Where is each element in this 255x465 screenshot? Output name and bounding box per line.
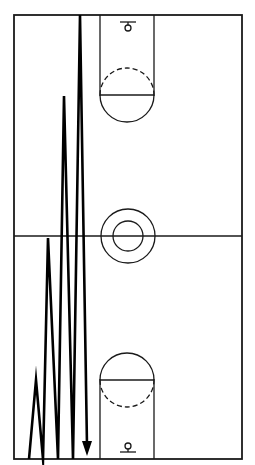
top-free-throw-circle-solid xyxy=(100,95,154,122)
top-key xyxy=(100,15,154,122)
bottom-free-throw-circle-dashed xyxy=(100,380,154,407)
arrow-head-icon xyxy=(82,441,92,456)
bottom-basket-icon xyxy=(120,443,136,452)
top-basket-icon xyxy=(120,22,136,31)
court xyxy=(14,15,242,459)
zigzag-drill-path xyxy=(29,15,87,459)
court-boundary xyxy=(14,15,242,459)
bottom-key xyxy=(100,353,154,459)
drill-path-group xyxy=(29,15,92,459)
bottom-free-throw-circle-solid xyxy=(100,353,154,380)
top-free-throw-circle-dashed xyxy=(100,68,154,95)
basketball-court-diagram xyxy=(0,0,255,465)
